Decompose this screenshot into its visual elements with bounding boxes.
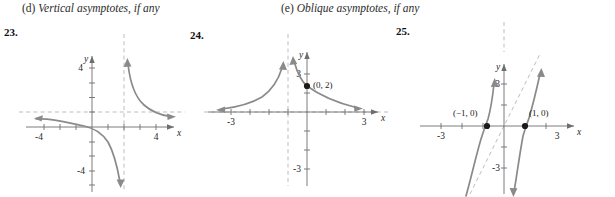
part-text-d: Vertical asymptotes, if any bbox=[38, 2, 159, 14]
part-letter-e: (e) bbox=[281, 2, 294, 14]
y-axis-label-23: y bbox=[83, 54, 89, 64]
curve-25-right-up-arrowhead bbox=[537, 68, 545, 77]
curve-24-leftbranch-up-arrowhead bbox=[279, 61, 287, 70]
y-axis-arrow-24 bbox=[304, 52, 309, 59]
x-axis-arrow-23 bbox=[167, 124, 174, 129]
x-tick-label-24-pos3: 3 bbox=[362, 117, 367, 127]
point-marker-25-pos1 bbox=[522, 123, 528, 129]
graph-24: -3 3 3 -3 x y (0, 2) bbox=[200, 24, 396, 197]
y-axis-arrow-23 bbox=[89, 56, 94, 63]
part-letter-d: (d) bbox=[22, 2, 35, 14]
y-axis-label-24: y bbox=[298, 50, 304, 60]
x-tick-label-25-neg3: -3 bbox=[437, 131, 445, 141]
curve-24-right-arrowhead bbox=[354, 106, 363, 112]
graph-25: -3 3 3 -3 x y (−1, 0) (1, 0) bbox=[408, 22, 608, 197]
curve-23-right-arrowhead bbox=[167, 114, 176, 120]
curve-24-rightbranch-up-arrowhead bbox=[289, 56, 297, 65]
part-text-e: Oblique asymptotes, if any bbox=[297, 2, 420, 14]
x-tick-label-23-pos4: 4 bbox=[154, 132, 159, 142]
curve-25-right-branch bbox=[514, 74, 540, 192]
x-axis-label-23: x bbox=[176, 128, 182, 138]
y-tick-label-25-neg3: -3 bbox=[492, 163, 500, 173]
curve-24-left-branch bbox=[222, 68, 282, 109]
point-marker-24 bbox=[304, 83, 310, 89]
point-label-24: (0, 2) bbox=[313, 80, 333, 90]
y-tick-label-24-neg3: -3 bbox=[293, 164, 301, 174]
point-label-25-neg1: (−1, 0) bbox=[453, 108, 478, 118]
x-tick-label-25-pos3: 3 bbox=[555, 131, 560, 141]
curve-23-right-branch bbox=[128, 64, 170, 116]
graph-23: -4 4 4 -4 x y bbox=[14, 24, 190, 197]
oblique-asymptote-25 bbox=[470, 54, 540, 194]
curve-25-left-branch bbox=[466, 84, 494, 196]
y-axis-arrow-25 bbox=[501, 64, 506, 71]
x-axis-arrow-25 bbox=[567, 123, 574, 128]
x-axis-arrow-24 bbox=[371, 109, 378, 114]
exercise-figure-page: (d) Vertical asymptotes, if any (e) Obli… bbox=[0, 0, 615, 197]
x-axis-label-25: x bbox=[576, 127, 582, 137]
y-tick-label-23-pos4: 4 bbox=[78, 63, 83, 73]
curve-25-right-down-arrowhead bbox=[510, 188, 518, 197]
y-axis-label-25: y bbox=[495, 62, 501, 72]
curve-23-left-arrowhead bbox=[34, 115, 43, 121]
x-axis-label-24: x bbox=[380, 113, 386, 123]
curve-23-up-arrowhead bbox=[124, 58, 132, 67]
point-label-25-pos1: (1, 0) bbox=[529, 108, 549, 118]
point-marker-25-neg1 bbox=[484, 123, 490, 129]
part-label-e: (e) Oblique asymptotes, if any bbox=[281, 2, 419, 14]
part-label-d: (d) Vertical asymptotes, if any bbox=[22, 2, 160, 14]
curve-23-down-arrowhead bbox=[117, 180, 125, 189]
x-tick-label-23-neg4: -4 bbox=[35, 132, 43, 142]
x-tick-label-24-neg3: -3 bbox=[227, 117, 235, 127]
y-tick-label-23-neg4: -4 bbox=[77, 166, 85, 176]
